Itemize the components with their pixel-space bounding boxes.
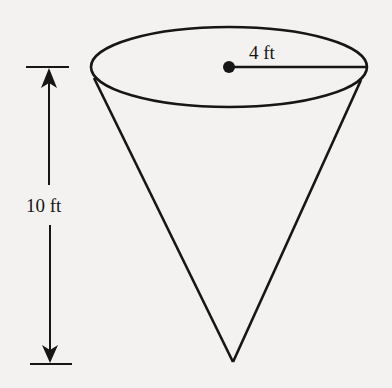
radius-label: 4 ft	[249, 43, 275, 62]
cone-right-side	[233, 80, 361, 362]
cone-left-side	[94, 78, 233, 362]
cone-diagram: 4 ft 10 ft	[0, 0, 392, 388]
center-dot	[223, 61, 235, 73]
cone-drawing	[0, 0, 392, 388]
height-label: 10 ft	[26, 196, 61, 215]
